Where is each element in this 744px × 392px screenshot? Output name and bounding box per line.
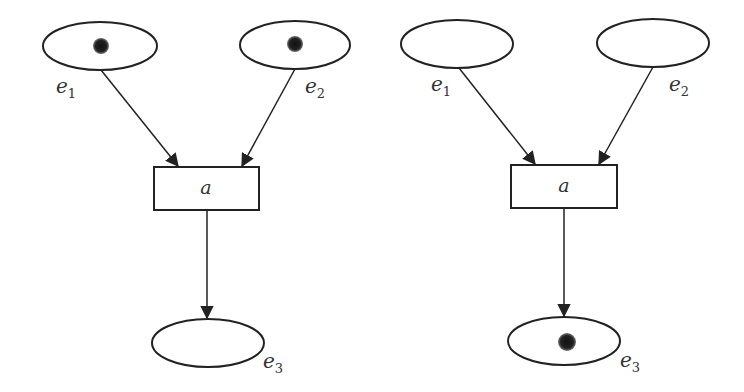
- place-e2: e2: [597, 19, 709, 99]
- place-e1: e1: [43, 22, 157, 101]
- arc-e1-to-a: [101, 70, 178, 166]
- transition-label: a: [200, 176, 211, 198]
- place-e3: e3: [508, 317, 640, 375]
- place-label-e3: e3: [263, 349, 283, 376]
- place-label-e1: e1: [431, 72, 451, 99]
- place-label-e3: e3: [620, 348, 640, 375]
- place-label-e2: e2: [305, 74, 325, 101]
- petri-net-diagram: e1 e2 a e3 e1 e2 a: [0, 0, 744, 392]
- token-icon: [558, 333, 576, 351]
- arc-e2-to-a: [242, 69, 295, 166]
- place-e2: e2: [240, 21, 350, 101]
- token-icon: [287, 36, 303, 52]
- panel-after-firing: e1 e2 a e3: [401, 19, 709, 375]
- arc-e2-to-a: [599, 67, 653, 164]
- transition-label: a: [558, 174, 569, 196]
- token-icon: [93, 38, 109, 54]
- place-e1: e1: [401, 20, 513, 99]
- place-label-e2: e2: [669, 72, 689, 99]
- transition-a: a: [154, 167, 259, 210]
- panel-before-firing: e1 e2 a e3: [43, 21, 350, 376]
- transition-a: a: [511, 165, 617, 208]
- place-label-e1: e1: [56, 74, 76, 101]
- place-e3: e3: [152, 319, 283, 376]
- arc-e1-to-a: [459, 68, 535, 164]
